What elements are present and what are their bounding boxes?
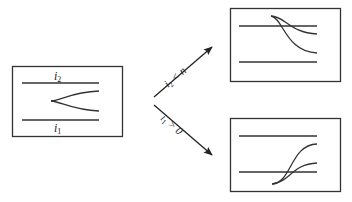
- upper-shift-box: [231, 9, 341, 82]
- label-i2: i2: [54, 69, 61, 84]
- shift-curve-b: [272, 163, 317, 184]
- diagram-canvas: i2 i1 i2 < n i1 > 0: [0, 0, 352, 202]
- shift-curve-b: [271, 16, 317, 53]
- shift-curve-a: [271, 16, 317, 34]
- condition-i1-gt-0: i1 > 0: [157, 111, 185, 138]
- initial-state-box: i2 i1: [13, 67, 123, 137]
- lower-shift-box: [231, 119, 341, 192]
- fork-curve-upper: [51, 91, 99, 101]
- fork-curve-lower: [51, 101, 99, 111]
- label-i1: i1: [54, 121, 61, 136]
